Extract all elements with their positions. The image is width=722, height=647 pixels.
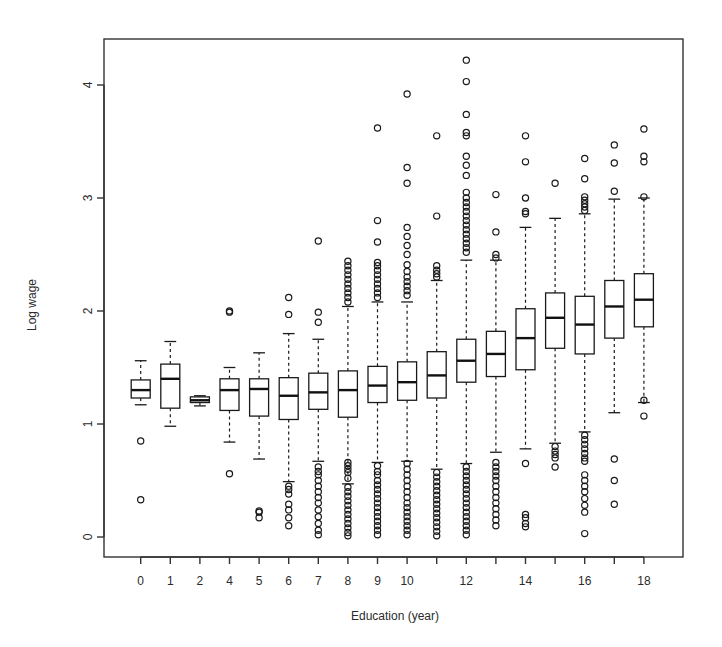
outlier-point: [582, 176, 588, 182]
outlier-point: [286, 294, 292, 300]
outlier-point: [374, 532, 380, 538]
outlier-point: [434, 533, 440, 539]
box-whisker-group: [546, 180, 565, 470]
box-whisker-group: [161, 342, 180, 427]
box-iqr: [338, 371, 357, 417]
x-tick-label: 16: [578, 574, 592, 588]
outlier-point: [493, 229, 499, 235]
outlier-point: [374, 239, 380, 245]
box-iqr: [279, 378, 298, 420]
box-series: [131, 57, 653, 539]
y-tick-label: 0: [81, 533, 95, 540]
box-whisker-group: [634, 126, 653, 419]
y-tick-label: 2: [81, 307, 95, 314]
box-whisker-group: [368, 125, 387, 538]
y-tick-label: 4: [81, 81, 95, 88]
x-tick-label: 4: [226, 574, 233, 588]
outlier-point: [374, 294, 380, 300]
outlier-point: [552, 180, 558, 186]
plot-frame: [104, 39, 683, 557]
box-whisker-group: [486, 192, 505, 529]
outlier-point: [582, 495, 588, 501]
x-tick-label: 0: [137, 574, 144, 588]
outlier-point: [522, 195, 528, 201]
outlier-point: [138, 497, 144, 503]
box-whisker-group: [427, 133, 446, 539]
box-whisker-group: [457, 57, 476, 538]
x-tick-label: 6: [285, 574, 292, 588]
outlier-point: [582, 502, 588, 508]
x-tick-label: 18: [637, 574, 651, 588]
outlier-point: [522, 159, 528, 165]
outlier-point: [463, 57, 469, 63]
outlier-point: [611, 456, 617, 462]
outlier-point: [404, 164, 410, 170]
outlier-point: [611, 188, 617, 194]
outlier-point: [611, 160, 617, 166]
box-iqr: [220, 379, 239, 411]
y-axis-title: Log wage: [25, 279, 39, 331]
outlier-point: [286, 515, 292, 521]
outlier-point: [582, 509, 588, 515]
outlier-point: [522, 460, 528, 466]
outlier-point: [315, 514, 321, 520]
outlier-point: [315, 507, 321, 513]
box-whisker-group: [575, 155, 594, 536]
outlier-point: [404, 242, 410, 248]
y-tick-label: 1: [81, 420, 95, 427]
y-axis: 01234: [81, 81, 104, 540]
outlier-point: [463, 153, 469, 159]
x-tick-label: 8: [345, 574, 352, 588]
outlier-point: [434, 133, 440, 139]
box-whisker-group: [131, 361, 150, 503]
x-tick-label: 14: [519, 574, 533, 588]
outlier-point: [374, 125, 380, 131]
outlier-point: [286, 523, 292, 529]
outlier-point: [582, 155, 588, 161]
outlier-point: [374, 218, 380, 224]
outlier-point: [404, 224, 410, 230]
outlier-point: [286, 491, 292, 497]
outlier-point: [582, 531, 588, 537]
box-whisker-group: [190, 396, 209, 406]
box-whisker-group: [309, 238, 328, 538]
outlier-point: [138, 438, 144, 444]
outlier-point: [611, 477, 617, 483]
outlier-point: [463, 162, 469, 168]
x-axis-title: Education (year): [351, 609, 439, 623]
box-whisker-group: [279, 294, 298, 528]
box-whisker-group: [605, 142, 624, 508]
outlier-point: [286, 311, 292, 317]
box-whisker-group: [516, 133, 535, 530]
outlier-point: [493, 192, 499, 198]
box-whisker-group: [338, 258, 357, 539]
outlier-point: [611, 501, 617, 507]
x-axis: 0124567891012141618: [137, 557, 651, 588]
outlier-point: [463, 172, 469, 178]
outlier-point: [463, 532, 469, 538]
outlier-point: [552, 464, 558, 470]
outlier-point: [463, 249, 469, 255]
outlier-point: [611, 142, 617, 148]
box-iqr: [546, 293, 565, 348]
outlier-point: [404, 91, 410, 97]
outlier-point: [315, 532, 321, 538]
x-tick-label: 1: [167, 574, 174, 588]
x-tick-label: 5: [256, 574, 263, 588]
outlier-point: [404, 251, 410, 257]
box-iqr: [250, 379, 269, 416]
outlier-point: [315, 520, 321, 526]
outlier-point: [315, 319, 321, 325]
outlier-point: [641, 126, 647, 132]
x-tick-label: 12: [460, 574, 474, 588]
outlier-point: [315, 309, 321, 315]
outlier-point: [404, 532, 410, 538]
x-tick-label: 9: [374, 574, 381, 588]
outlier-point: [463, 79, 469, 85]
x-tick-label: 2: [197, 574, 204, 588]
outlier-point: [345, 299, 351, 305]
outlier-point: [226, 471, 232, 477]
x-tick-label: 7: [315, 574, 322, 588]
box-whisker-group: [220, 308, 239, 477]
outlier-point: [404, 233, 410, 239]
